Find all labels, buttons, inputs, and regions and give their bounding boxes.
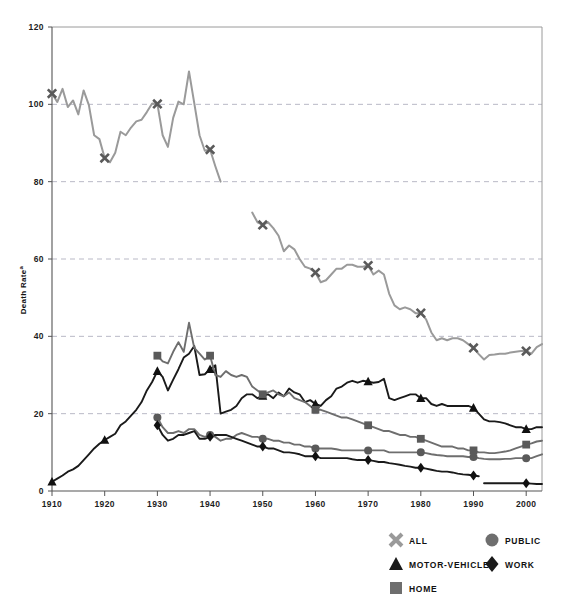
series-line-work bbox=[484, 483, 542, 484]
series-marker-home bbox=[417, 435, 425, 443]
series-marker-home bbox=[312, 406, 320, 414]
x-tick-label: 1940 bbox=[200, 499, 221, 509]
series-marker-home bbox=[153, 352, 161, 360]
series-marker-public bbox=[522, 454, 530, 462]
legend-triangle-icon bbox=[389, 557, 403, 570]
y-tick-label: 0 bbox=[39, 486, 44, 496]
series-marker-public bbox=[417, 448, 425, 456]
x-tick-label: 1960 bbox=[305, 499, 326, 509]
y-axis-label: Death Ratea bbox=[18, 265, 28, 314]
data-series-layer bbox=[52, 71, 542, 484]
series-marker-motor-vehicle bbox=[100, 435, 109, 444]
y-tick-label: 40 bbox=[34, 331, 44, 341]
legend-square-icon bbox=[390, 582, 402, 594]
y-axis-label-superscript: a bbox=[18, 265, 24, 269]
y-tick-label: 20 bbox=[34, 409, 44, 419]
series-marker-public bbox=[470, 453, 478, 461]
gridlines bbox=[52, 104, 542, 413]
series-marker-home bbox=[522, 441, 530, 449]
legend-item-motor-vehicle[interactable]: MOTOR-VEHICLE bbox=[389, 557, 489, 570]
y-tick-label: 100 bbox=[29, 99, 44, 109]
x-tick-label: 1910 bbox=[42, 499, 63, 509]
legend-item-public[interactable]: PUBLIC bbox=[486, 534, 541, 547]
x-tick-label: 2000 bbox=[516, 499, 537, 509]
series-marker-motor-vehicle bbox=[47, 477, 56, 486]
series-line-all bbox=[252, 213, 542, 360]
legend-item-home[interactable]: HOME bbox=[390, 582, 437, 594]
legend-label: PUBLIC bbox=[505, 536, 541, 546]
series-marker-public bbox=[364, 446, 372, 454]
series-marker-work bbox=[259, 442, 266, 452]
series-marker-work bbox=[417, 463, 424, 473]
y-tick-label: 80 bbox=[34, 177, 44, 187]
series-line-home bbox=[157, 323, 542, 453]
x-tick-label: 1930 bbox=[147, 499, 168, 509]
x-axis-ticks: 1910192019301940195019601970198019902000 bbox=[42, 491, 537, 509]
series-marker-home bbox=[364, 421, 372, 429]
data-markers-layer bbox=[47, 89, 530, 488]
series-marker-all bbox=[469, 344, 477, 352]
x-tick-label: 1990 bbox=[463, 499, 484, 509]
y-axis-label-text: Death Rate bbox=[19, 269, 28, 314]
series-marker-home bbox=[206, 352, 214, 360]
legend-item-work[interactable]: WORK bbox=[486, 556, 535, 572]
line-chart: Death Ratea 020406080100120 191019201930… bbox=[0, 0, 564, 603]
chart-legend: ALLPUBLICMOTOR-VEHICLEWORKHOME bbox=[389, 534, 541, 595]
x-tick-label: 1970 bbox=[358, 499, 379, 509]
x-tick-label: 1980 bbox=[411, 499, 432, 509]
x-tick-label: 1920 bbox=[94, 499, 115, 509]
chart-container: Death Ratea 020406080100120 191019201930… bbox=[0, 0, 564, 603]
legend-item-all[interactable]: ALL bbox=[390, 534, 428, 546]
svg-text:Death Ratea: Death Ratea bbox=[18, 265, 28, 314]
legend-label: ALL bbox=[409, 536, 428, 546]
legend-label: MOTOR-VEHICLE bbox=[409, 560, 489, 570]
series-marker-work bbox=[364, 455, 371, 465]
series-marker-home bbox=[259, 390, 267, 398]
series-marker-work bbox=[470, 471, 477, 481]
series-line-all bbox=[52, 71, 221, 181]
x-tick-label: 1950 bbox=[252, 499, 273, 509]
y-tick-label: 120 bbox=[29, 22, 44, 32]
series-marker-work bbox=[522, 478, 529, 488]
legend-label: WORK bbox=[505, 560, 535, 570]
legend-circle-icon bbox=[486, 534, 499, 547]
y-tick-label: 60 bbox=[34, 254, 44, 264]
legend-label: HOME bbox=[409, 584, 437, 594]
series-marker-all bbox=[311, 268, 319, 276]
y-axis-ticks: 020406080100120 bbox=[29, 22, 52, 496]
legend-x-icon bbox=[390, 534, 402, 546]
series-marker-work bbox=[312, 451, 319, 461]
series-marker-motor-vehicle bbox=[153, 366, 162, 375]
series-marker-all bbox=[259, 221, 267, 229]
legend-diamond-icon bbox=[486, 556, 499, 572]
